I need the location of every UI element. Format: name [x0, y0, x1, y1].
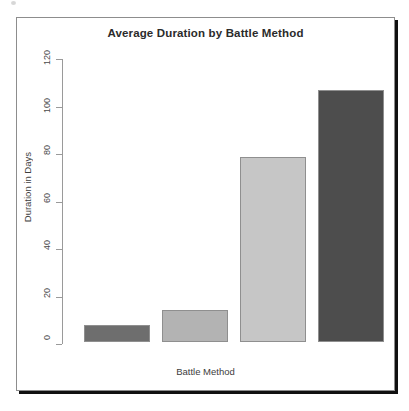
- bar-series: [17, 18, 394, 390]
- plot-area: Average Duration by Battle Method Durati…: [17, 18, 394, 390]
- chart-figure: Average Duration by Battle Method Durati…: [16, 17, 395, 391]
- screenshot-root: Average Duration by Battle Method Durati…: [0, 0, 409, 411]
- scan-artifact-speck: [11, 1, 16, 5]
- bar: [240, 157, 306, 342]
- x-axis-title: Battle Method: [17, 366, 394, 377]
- bar: [318, 90, 384, 342]
- bar: [84, 325, 150, 342]
- bar: [162, 310, 228, 342]
